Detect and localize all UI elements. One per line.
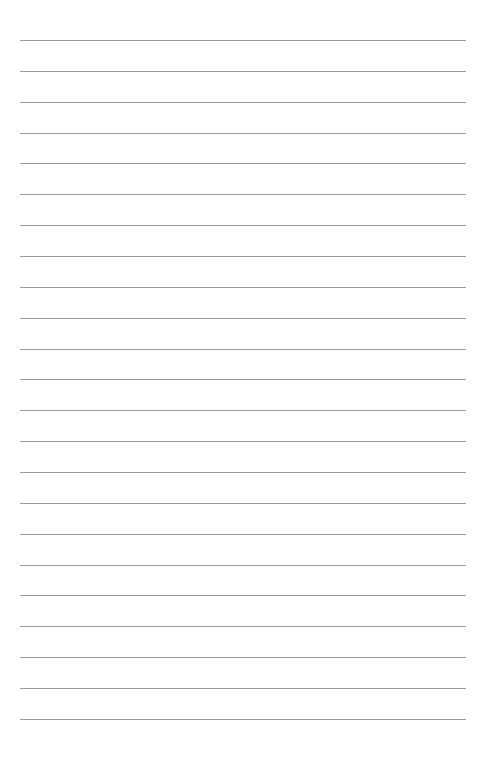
ruled-line (20, 163, 466, 164)
ruled-line (20, 534, 466, 535)
ruled-line (20, 349, 466, 350)
ruled-line (20, 287, 466, 288)
ruled-line (20, 379, 466, 380)
ruled-line (20, 40, 466, 41)
ruled-line (20, 225, 466, 226)
ruled-line (20, 133, 466, 134)
ruled-line (20, 565, 466, 566)
ruled-line (20, 657, 466, 658)
ruled-line (20, 256, 466, 257)
lined-page (0, 0, 485, 759)
ruled-line (20, 472, 466, 473)
ruled-line (20, 688, 466, 689)
ruled-line (20, 595, 466, 596)
ruled-line (20, 102, 466, 103)
ruled-line (20, 410, 466, 411)
ruled-line (20, 626, 466, 627)
ruled-line (20, 71, 466, 72)
ruled-line (20, 719, 466, 720)
ruled-line (20, 318, 466, 319)
ruled-line (20, 194, 466, 195)
ruled-line (20, 441, 466, 442)
ruled-line (20, 503, 466, 504)
